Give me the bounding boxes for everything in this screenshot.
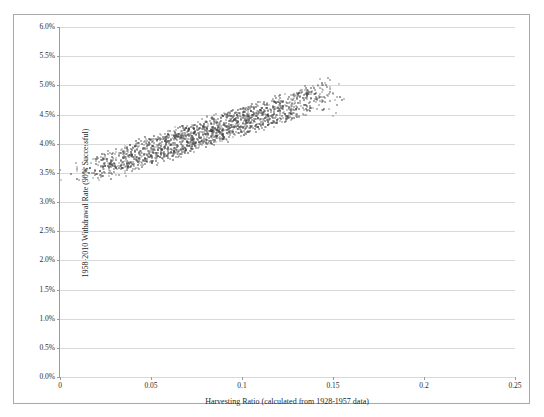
scatter-point [327,78,329,79]
scatter-point [308,103,310,104]
scatter-point [159,133,161,134]
scatter-point [144,164,146,165]
scatter-point [338,84,340,85]
scatter-point [137,165,139,166]
scatter-point [318,105,320,106]
scatter-point [203,128,205,129]
scatter-point [187,135,189,136]
scatter-point [283,112,285,113]
scatter-point [134,151,136,152]
scatter-point [138,157,140,158]
scatter-point [215,123,217,124]
scatter-point [102,175,104,176]
scatter-point [238,133,240,134]
scatter-point [296,107,298,108]
scatter-point [237,110,239,111]
scatter-point [319,88,321,89]
scatter-point [124,145,126,146]
scatter-point [263,104,265,105]
scatter-point [127,150,129,151]
scatter-point [103,168,105,169]
scatter-point [119,166,121,167]
scatter-point [263,119,265,120]
scatter-point [222,135,224,136]
scatter-point [235,131,237,132]
scatter-point [185,150,187,151]
scatter-point [163,148,165,149]
scatter-point [212,130,214,131]
scatter-point [182,132,184,133]
scatter-point [257,106,259,107]
scatter-point [210,140,212,141]
scatter-point [232,131,234,132]
scatter-point [173,142,175,143]
scatter-point [198,129,200,130]
scatter-point [111,173,113,174]
chart-frame: 1958-2010 Withdrawal Rate (90% Successfu… [13,14,530,404]
scatter-point [233,115,235,116]
scatter-point [115,152,117,153]
scatter-point [223,130,225,131]
scatter-point [146,160,148,161]
scatter-point [121,149,123,150]
scatter-point [285,120,287,121]
scatter-point [192,136,194,137]
scatter-point [118,174,120,175]
scatter-point [282,109,284,110]
scatter-point [144,158,146,159]
scatter-point [251,104,253,105]
scatter-point [268,120,270,121]
scatter-point [197,147,199,148]
scatter-point [198,135,200,136]
scatter-point [153,142,155,143]
scatter-point [153,152,155,153]
scatter-point [178,155,180,156]
scatter-point [126,169,128,170]
scatter-point [292,113,294,114]
scatter-point [207,132,209,133]
y-tick-label: 1.0% [39,315,55,323]
scatter-point [273,109,275,110]
scatter-point [291,118,293,119]
scatter-point [246,118,248,119]
scatter-point [191,139,193,140]
scatter-point [315,102,317,103]
scatter-point [133,164,135,165]
scatter-point [190,151,192,152]
scatter-point [200,137,202,138]
scatter-point [178,151,180,152]
scatter-point [321,82,323,83]
scatter-point [268,104,270,105]
scatter-point [169,158,171,159]
scatter-point [83,176,85,177]
scatter-point [287,117,289,118]
scatter-point [255,103,257,104]
scatter-point [114,166,116,167]
scatter-point [319,97,321,98]
scatter-point [161,141,163,142]
scatter-point [70,173,72,174]
scatter-point [279,95,281,96]
scatter-point [281,115,283,116]
scatter-point [286,116,288,117]
scatter-point [321,110,323,111]
scatter-point [300,92,302,93]
scatter-point [290,105,292,106]
scatter-point [335,113,337,114]
scatter-point [104,162,106,163]
scatter-point [305,114,307,115]
scatter-point [285,105,287,106]
scatter-point [176,135,178,136]
scatter-point [275,114,277,115]
scatter-point [259,123,261,124]
scatter-point [269,108,271,109]
scatter-point [237,124,239,125]
scatter-point [154,149,156,150]
scatter-point [175,138,177,139]
y-tick-label: 2.5% [39,227,55,235]
scatter-point [234,119,236,120]
scatter-point [321,85,323,86]
scatter-point [279,111,281,112]
scatter-point [149,162,151,163]
scatter-point [92,177,94,178]
